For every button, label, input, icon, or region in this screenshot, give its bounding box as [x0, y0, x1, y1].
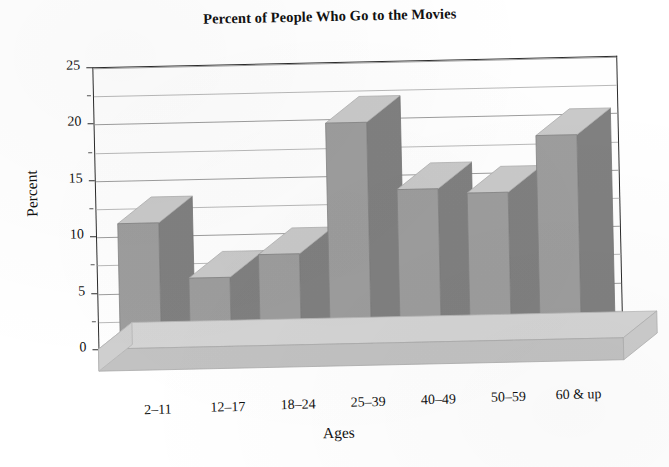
chart-figure: Percent of People Who Go to the Movies P… [0, 0, 669, 467]
x-tick-label-60 & up: 60 & up [533, 386, 623, 404]
